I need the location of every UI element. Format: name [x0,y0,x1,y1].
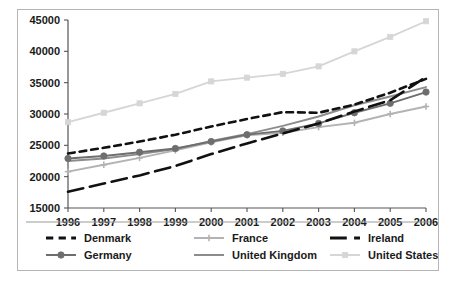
y-tick-label: 15000 [29,202,60,214]
data-point-marker [101,162,107,168]
data-point-marker [101,153,107,159]
y-axis-tick-labels: 45000400003500030000250002000015000 [29,14,60,214]
series-line [68,92,426,158]
legend-item-france[interactable]: France [194,232,268,244]
data-series-group [65,19,429,192]
legend-item-united-states[interactable]: United States [330,249,438,261]
y-tick-label: 25000 [29,139,60,151]
data-point-marker [244,131,250,137]
series-united-states [65,19,428,125]
chart-figure: 45000400003500030000250002000015000 1996… [17,9,439,271]
data-point-marker [172,145,178,151]
data-point-marker [423,19,428,24]
line-chart-svg: 45000400003500030000250002000015000 1996… [18,10,438,270]
data-point-marker [280,71,285,76]
data-point-marker [342,252,347,257]
legend-label: Germany [84,249,133,261]
data-point-marker [423,103,429,109]
series-line [68,106,426,171]
data-point-marker [101,110,106,115]
y-tick-label: 40000 [29,45,60,57]
data-point-marker [387,111,393,117]
data-point-marker [209,79,214,84]
plot-area: 45000400003500030000250002000015000 1996… [18,10,438,270]
legend-item-united-kingdom[interactable]: United Kingdom [194,249,317,261]
legend-item-germany[interactable]: Germany [46,249,133,261]
data-point-marker [352,49,357,54]
y-tick-label: 35000 [29,77,60,89]
y-tick-label: 30000 [29,108,60,120]
data-point-marker [173,91,178,96]
legend-label: United States [368,249,438,261]
legend-label: United Kingdom [232,249,317,261]
data-point-marker [136,149,142,155]
legend-item-denmark[interactable]: Denmark [46,232,132,244]
data-point-marker [316,64,321,69]
legend-label: Denmark [84,232,132,244]
data-point-marker [423,89,429,95]
data-point-marker [65,168,71,174]
legend-label: Ireland [368,232,404,244]
legend-item-ireland[interactable]: Ireland [330,232,404,244]
chart-legend: DenmarkFranceGermanyIrelandUnited Kingdo… [46,232,438,261]
data-point-marker [388,34,393,39]
series-france [65,103,429,175]
legend-label: France [232,232,268,244]
x-tick-marks [68,208,426,212]
data-point-marker [244,75,249,80]
data-point-marker [65,120,70,125]
y-tick-label: 45000 [29,14,60,26]
data-point-marker [208,138,214,144]
data-point-marker [206,235,212,241]
data-point-marker [58,252,64,258]
data-point-marker [65,155,71,161]
data-point-marker [351,120,357,126]
y-tick-label: 20000 [29,171,60,183]
data-point-marker [137,101,142,106]
